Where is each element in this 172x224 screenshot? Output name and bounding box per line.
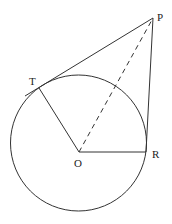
circle — [11, 75, 147, 211]
segment-PR — [146, 18, 153, 152]
tangent-line-PT — [25, 18, 153, 96]
geometry-diagram: P T O R — [0, 0, 172, 224]
label-O: O — [74, 157, 82, 169]
diagram-canvas: P T O R — [0, 0, 172, 224]
label-R: R — [152, 148, 160, 160]
dashed-segment-OP — [79, 18, 153, 152]
label-T: T — [29, 75, 36, 87]
label-P: P — [157, 11, 163, 23]
radius-OT — [39, 88, 79, 152]
